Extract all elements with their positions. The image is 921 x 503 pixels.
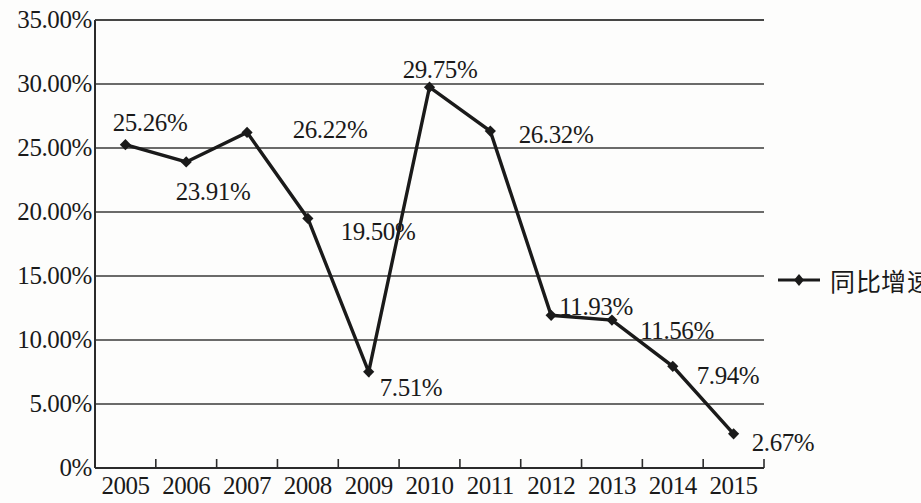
x-axis-ticks [95, 459, 764, 468]
x-axis-labels: 2005200620072008200920102011201220132014… [0, 472, 921, 503]
data-point-label: 7.94% [697, 362, 760, 390]
chart-container: 0%5.00%10.00%15.00%20.00%25.00%30.00%35.… [0, 0, 921, 503]
legend-line-marker-icon [778, 271, 820, 289]
data-point-label: 26.32% [519, 121, 594, 149]
x-axis-tick-label: 2009 [345, 472, 393, 500]
x-axis-tick-label: 2010 [406, 472, 454, 500]
x-axis-tick-label: 2007 [223, 472, 271, 500]
data-point-label: 23.91% [176, 178, 251, 206]
data-point-label: 19.50% [341, 218, 416, 246]
data-point-label: 2.67% [752, 429, 815, 457]
x-axis-tick-label: 2014 [649, 472, 697, 500]
x-axis-tick-label: 2008 [284, 472, 332, 500]
x-axis-tick-label: 2013 [588, 472, 636, 500]
legend: 同比增速 [778, 262, 921, 298]
legend-label: 同比增速 [830, 262, 921, 298]
data-point-label: 11.56% [640, 317, 714, 345]
data-point-label: 7.51% [380, 374, 443, 402]
data-point-label: 25.26% [113, 109, 188, 137]
x-axis-tick-label: 2015 [710, 472, 758, 500]
x-axis-tick-label: 2012 [527, 472, 575, 500]
x-axis-tick-label: 2006 [162, 472, 210, 500]
data-point-label: 29.75% [403, 56, 478, 84]
data-point-label: 26.22% [293, 116, 368, 144]
x-axis-tick-label: 2011 [467, 472, 514, 500]
x-axis-tick-label: 2005 [101, 472, 149, 500]
data-point-label: 11.93% [559, 293, 633, 321]
